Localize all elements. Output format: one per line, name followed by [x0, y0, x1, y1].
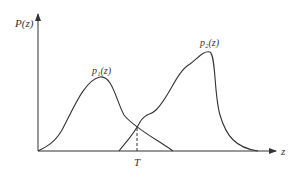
- x-axis-label: z: [280, 145, 286, 157]
- probability-density-diagram: P(z) z p₁(z) p₂(z) T: [0, 0, 294, 173]
- threshold-label: T: [134, 156, 141, 168]
- y-axis-label: P(z): [14, 17, 34, 30]
- curve1-label: p₁(z): [91, 65, 112, 77]
- curve-p1: [38, 77, 173, 151]
- curve-p2: [119, 52, 258, 151]
- curve2-label: p₂(z): [199, 37, 220, 49]
